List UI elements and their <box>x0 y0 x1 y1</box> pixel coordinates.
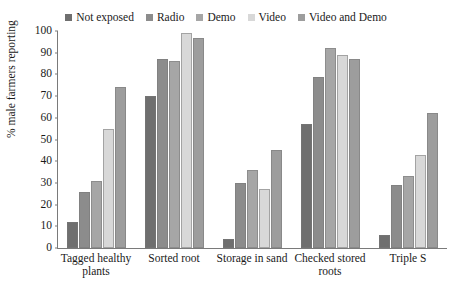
legend-label: Demo <box>207 12 235 24</box>
bar <box>193 38 204 248</box>
legend-swatch-icon <box>298 14 305 21</box>
bar <box>427 113 438 248</box>
bar-group <box>58 31 136 248</box>
bar <box>223 239 234 248</box>
bar <box>181 33 192 248</box>
bar <box>145 96 156 248</box>
bar <box>67 222 78 248</box>
bar <box>415 155 426 248</box>
x-axis-label: Sorted root <box>135 252 213 278</box>
bar-group <box>291 31 369 248</box>
bar-group <box>214 31 292 248</box>
bar <box>271 150 282 248</box>
legend-swatch-icon <box>196 14 203 21</box>
bar <box>169 61 180 248</box>
bar <box>325 48 336 248</box>
legend-swatch-icon <box>248 14 255 21</box>
chart-legend: Not exposedRadioDemoVideoVideo and Demo <box>0 12 452 24</box>
bar <box>157 59 168 248</box>
legend-swatch-icon <box>65 14 72 21</box>
bar <box>349 59 360 248</box>
y-axis-title: % male farmers reporting <box>6 20 18 138</box>
legend-label: Not exposed <box>76 12 134 24</box>
plot-area: 0102030405060708090100 <box>57 31 447 249</box>
bar <box>403 176 414 248</box>
bar-group <box>369 31 447 248</box>
bar <box>247 170 258 248</box>
bar-groups <box>58 31 447 248</box>
bar <box>391 185 402 248</box>
bar-chart: Not exposedRadioDemoVideoVideo and Demo … <box>0 0 452 302</box>
x-axis-labels: Tagged healthy plantsSorted rootStorage … <box>57 252 447 278</box>
bar <box>79 192 90 248</box>
legend-item: Video <box>248 12 286 24</box>
legend-item: Radio <box>146 12 184 24</box>
legend-item: Video and Demo <box>298 12 387 24</box>
legend-label: Radio <box>157 12 184 24</box>
legend-swatch-icon <box>146 14 153 21</box>
bar <box>337 55 348 248</box>
bar <box>91 181 102 248</box>
x-axis-label: Triple S <box>369 252 447 278</box>
bar <box>235 183 246 248</box>
legend-label: Video <box>259 12 286 24</box>
bar <box>259 189 270 248</box>
bar <box>313 77 324 248</box>
bar <box>115 87 126 248</box>
legend-item: Not exposed <box>65 12 134 24</box>
x-axis-label: Tagged healthy plants <box>57 252 135 278</box>
bar <box>103 129 114 248</box>
x-axis-label: Storage in sand <box>213 252 291 278</box>
bar <box>301 124 312 248</box>
bar <box>379 235 390 248</box>
legend-item: Demo <box>196 12 235 24</box>
legend-label: Video and Demo <box>309 12 387 24</box>
bar-group <box>136 31 214 248</box>
x-axis-label: Checked stored roots <box>291 252 369 278</box>
